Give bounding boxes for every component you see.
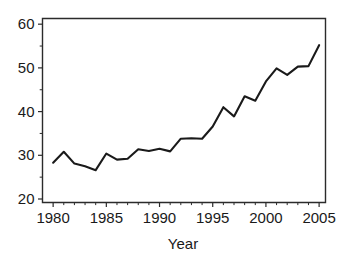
x-axis-tick-label-1990: 1990 <box>143 209 176 226</box>
x-axis-tick-label-2000: 2000 <box>249 209 282 226</box>
x-axis-tick-label-1995: 1995 <box>196 209 229 226</box>
y-axis-tick-label-50: 50 <box>18 59 35 76</box>
line-chart-figure: 2030405060 198019851990199520002005 Year <box>0 0 347 256</box>
y-axis-tick-label-30: 30 <box>18 146 35 163</box>
x-axis-tick-label-2005: 2005 <box>302 209 335 226</box>
x-axis-tick-label-1980: 1980 <box>36 209 69 226</box>
x-axis-title: Year <box>168 235 198 252</box>
y-axis-tick-label-40: 40 <box>18 103 35 120</box>
x-axis-tick-label-1985: 1985 <box>90 209 123 226</box>
y-axis-tick-label-60: 60 <box>18 15 35 32</box>
y-axis-tick-label-20: 20 <box>18 190 35 207</box>
chart-canvas: 2030405060 198019851990199520002005 Year <box>0 0 347 256</box>
